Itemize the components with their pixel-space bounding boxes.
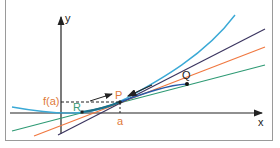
x-axis-label: x	[258, 117, 264, 128]
approach-arrow-from-r	[90, 94, 112, 101]
point-q-label: Q	[182, 70, 191, 81]
diagram-canvas	[0, 0, 280, 148]
y-axis-label: y	[65, 13, 71, 24]
y-tick-fa-label: f(a)	[43, 96, 60, 107]
point-p-label: P	[115, 90, 122, 101]
secant-line-q	[58, 29, 265, 135]
point-q	[185, 82, 189, 86]
point-r-label: R	[73, 102, 81, 113]
x-tick-a-label: a	[117, 116, 123, 127]
